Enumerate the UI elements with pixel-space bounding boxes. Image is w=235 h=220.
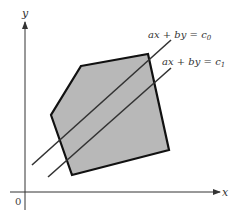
level-line-c1-subscript: 1 — [221, 61, 225, 69]
level-line-c0-label: ax + by = c0 — [148, 29, 212, 42]
level-line-c0-label-main: ax + by = c — [148, 29, 207, 40]
level-line-c0-subscript: 0 — [207, 34, 212, 42]
feasible-region-polygon — [51, 54, 169, 175]
level-line-c1-label: ax + by = c1 — [162, 56, 225, 69]
origin-label: 0 — [15, 196, 21, 207]
figure-canvas: x y 0 ax + by = c0 ax + by = c1 — [0, 0, 235, 220]
level-line-c1-label-main: ax + by = c — [162, 56, 221, 67]
y-axis-label: y — [21, 7, 29, 20]
x-axis-label: x — [222, 186, 229, 199]
